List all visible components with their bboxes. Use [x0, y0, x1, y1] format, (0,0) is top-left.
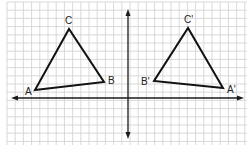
x-axis-left-arrow-icon [11, 96, 18, 101]
grid-lines [7, 2, 247, 145]
vertex-label-original-1: B [108, 75, 115, 86]
vertex-label-image-2: C' [184, 14, 193, 25]
vertex-label-original-2: C [65, 15, 72, 26]
axes [11, 9, 244, 139]
coordinate-plane-figure: ABCA'B'C' [0, 0, 247, 149]
vertex-label-original-0: A [25, 86, 32, 97]
triangle-image [154, 28, 223, 88]
vertex-label-image-0: A' [227, 84, 236, 95]
x-axis-right-arrow-icon [237, 96, 244, 101]
vertex-label-image-1: B' [141, 76, 150, 87]
